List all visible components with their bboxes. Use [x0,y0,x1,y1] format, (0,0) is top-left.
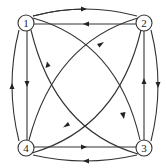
directed-graph-diagram: 1 2 3 4 [0,0,167,168]
node-4: 4 [18,140,34,156]
arrowhead-icon [63,122,70,128]
arrowhead-icon [10,83,15,89]
arrowhead-icon [25,81,30,87]
arrowhead-icon [83,22,89,27]
edge-3-to-4 [33,155,137,161]
arrowhead-icon [142,78,147,84]
node-label: 1 [23,17,29,29]
edge-2-to-3 [151,30,158,141]
node-3: 3 [136,140,152,156]
node-label: 3 [141,142,147,154]
arrowhead-icon [97,42,104,48]
edge-1-to-2-arrow [33,9,85,16]
graph-svg: 1 2 3 4 [0,0,167,168]
arrowhead-icon [46,62,51,69]
arrowhead-icon [81,145,87,150]
edge-4-to-2 [29,18,138,140]
node-1: 1 [18,15,34,31]
edge-4-to-1 [12,30,19,141]
arrowhead-icon [81,7,87,12]
arrowhead-icon [120,112,126,119]
node-2: 2 [136,15,152,31]
edge-2-to-4 [32,30,141,153]
arrowhead-icon [83,159,89,164]
node-label: 4 [23,142,29,154]
node-label: 2 [141,17,147,29]
arrowhead-icon [156,82,161,88]
